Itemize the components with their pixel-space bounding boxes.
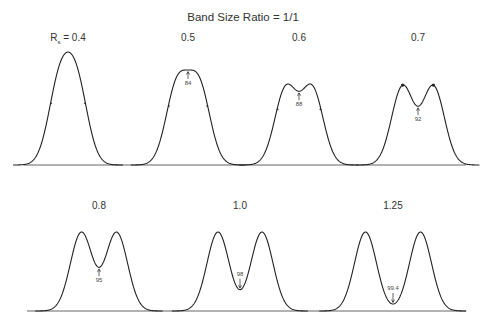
valley-annotation: 92 (415, 108, 422, 123)
inflection-dot (206, 105, 208, 107)
inflection-dot (50, 102, 52, 104)
valley-value: 99.4 (387, 285, 399, 291)
valley-annotation: 88 (296, 93, 303, 108)
inflection-dot (168, 105, 170, 107)
valley-value: 88 (296, 101, 303, 107)
valley-annotation: 95 (96, 269, 103, 284)
inflection-dot (277, 108, 279, 110)
chromatogram-curve (13, 52, 123, 165)
inflection-dot (320, 108, 322, 110)
valley-annotation: 84 (185, 72, 192, 87)
chromatogram-curve (356, 85, 479, 165)
valley-value: 84 (185, 80, 192, 86)
valley-annotation: 98 (237, 271, 244, 289)
valley-value: 98 (237, 271, 244, 277)
peak-dot (432, 84, 435, 87)
inflection-dot (84, 102, 86, 104)
valley-value: 95 (96, 277, 103, 283)
valley-value: 92 (415, 116, 422, 122)
peak-dot (401, 84, 404, 87)
chromatogram-figure: 848892959899.4 (0, 0, 486, 323)
